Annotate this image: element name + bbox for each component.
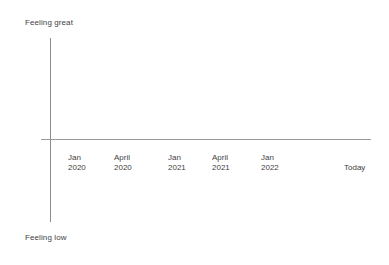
x-axis-tick-0: Jan2020: [68, 153, 86, 173]
y-axis-top-label: Feeling great: [25, 18, 73, 28]
tick-label-primary: Jan: [168, 153, 186, 163]
tick-label-secondary: 2022: [261, 163, 279, 173]
x-axis-tick-4: Jan2022: [261, 153, 279, 173]
y-axis-bottom-label: Feeling low: [25, 233, 67, 243]
x-axis-line: [41, 139, 371, 140]
x-axis-tick-1: April2020: [114, 153, 132, 173]
tick-label-secondary: 2020: [114, 163, 132, 173]
tick-label-primary: April: [114, 153, 132, 163]
tick-label-secondary: 2021: [212, 163, 230, 173]
tick-label-primary: April: [212, 153, 230, 163]
tick-label-primary: Today: [344, 163, 365, 173]
mood-timeline-chart: Feeling great Feeling low Jan2020April20…: [0, 0, 389, 265]
x-axis-tick-2: Jan2021: [168, 153, 186, 173]
tick-label-primary: Jan: [261, 153, 279, 163]
tick-label-secondary: 2021: [168, 163, 186, 173]
tick-label-primary: Jan: [68, 153, 86, 163]
x-axis-tick-3: April2021: [212, 153, 230, 173]
tick-label-secondary: 2020: [68, 163, 86, 173]
x-axis-tick-5: Today: [344, 163, 365, 173]
y-axis-line: [50, 38, 51, 222]
